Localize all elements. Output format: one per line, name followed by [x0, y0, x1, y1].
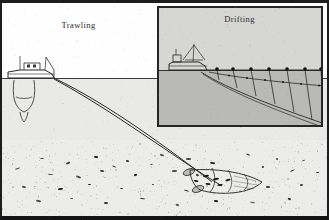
submerged-hull [13, 80, 34, 122]
otter-boards [182, 167, 204, 194]
drift-net [201, 67, 323, 127]
drifting-inset-panel [157, 6, 323, 127]
drifter-vessel [169, 44, 207, 70]
drifting-gear-drawing [159, 8, 323, 127]
drifting-label: Drifting [157, 14, 322, 24]
fishing-methods-figure: Trawling [0, 0, 329, 220]
trawling-label: Trawling [0, 20, 157, 30]
trawler-vessel [8, 56, 54, 78]
